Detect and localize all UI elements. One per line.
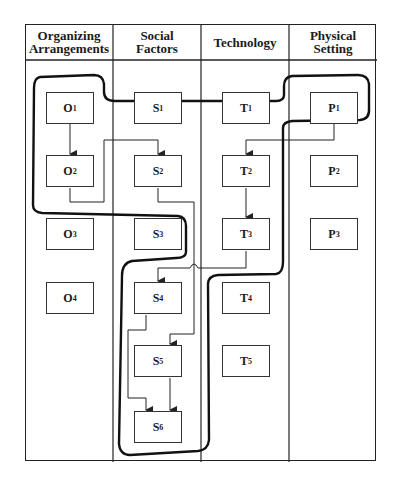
- node-t5: T5: [222, 345, 270, 377]
- node-subscript: 4: [248, 294, 252, 303]
- node-subscript: 6: [159, 423, 163, 432]
- node-subscript: 1: [159, 104, 163, 113]
- node-subscript: 2: [336, 167, 340, 176]
- node-subscript: 3: [248, 230, 252, 239]
- node-label: P: [328, 101, 335, 116]
- node-t1: T1: [222, 92, 270, 124]
- node-label: O: [63, 227, 72, 242]
- node-subscript: 2: [159, 167, 163, 176]
- node-label: O: [63, 164, 72, 179]
- node-s3: S3: [134, 218, 182, 250]
- node-subscript: 3: [159, 230, 163, 239]
- node-s6: S6: [134, 411, 182, 443]
- node-label: P: [328, 227, 335, 242]
- node-o3: O3: [46, 218, 94, 250]
- node-s5: S5: [134, 345, 182, 377]
- node-label: O: [63, 101, 72, 116]
- node-s2: S2: [134, 155, 182, 187]
- node-subscript: 1: [73, 104, 77, 113]
- node-o2: O2: [46, 155, 94, 187]
- node-label: S: [153, 101, 160, 116]
- node-subscript: 4: [73, 294, 77, 303]
- node-label: T: [240, 291, 248, 306]
- node-subscript: 1: [248, 104, 252, 113]
- node-t2: T2: [222, 155, 270, 187]
- node-t3: T3: [222, 218, 270, 250]
- node-label: S: [153, 227, 160, 242]
- node-o4: O4: [46, 282, 94, 314]
- node-p2: P2: [310, 155, 358, 187]
- node-label: T: [240, 354, 248, 369]
- node-subscript: 2: [248, 167, 252, 176]
- node-s1: S1: [134, 92, 182, 124]
- node-p1: P1: [310, 92, 358, 124]
- node-subscript: 3: [73, 230, 77, 239]
- node-subscript: 5: [159, 357, 163, 366]
- node-label: S: [153, 164, 160, 179]
- node-o1: O1: [46, 92, 94, 124]
- node-t4: T4: [222, 282, 270, 314]
- node-label: T: [240, 164, 248, 179]
- node-s4: S4: [134, 282, 182, 314]
- node-p3: P3: [310, 218, 358, 250]
- node-label: S: [153, 420, 160, 435]
- node-subscript: 3: [336, 230, 340, 239]
- node-subscript: 2: [73, 167, 77, 176]
- node-label: S: [153, 354, 160, 369]
- node-label: S: [153, 291, 160, 306]
- node-label: P: [328, 164, 335, 179]
- node-subscript: 1: [336, 104, 340, 113]
- node-label: O: [63, 291, 72, 306]
- node-subscript: 5: [248, 357, 252, 366]
- node-label: T: [240, 101, 248, 116]
- node-subscript: 4: [159, 294, 163, 303]
- node-label: T: [240, 227, 248, 242]
